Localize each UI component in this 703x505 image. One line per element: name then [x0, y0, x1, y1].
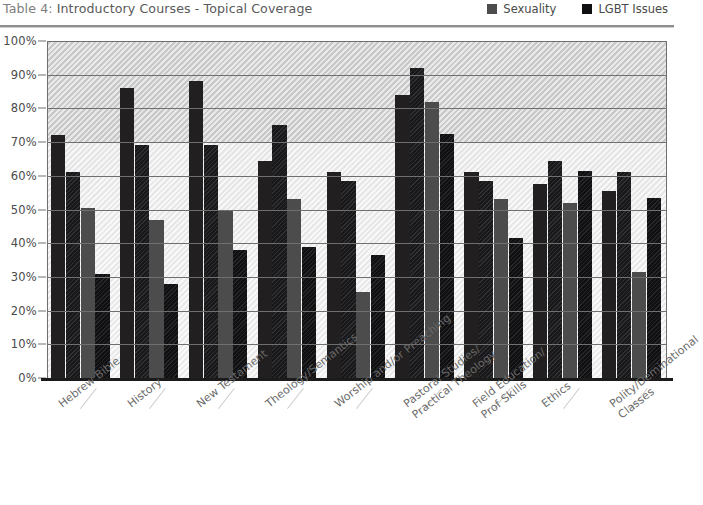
y-axis-tick-label: 80% [11, 101, 37, 115]
gridline [47, 243, 667, 244]
y-axis-tick-mark [38, 310, 46, 311]
bar [51, 135, 65, 378]
y-axis-tick-mark [38, 74, 46, 75]
bar [189, 81, 203, 378]
y-axis-tick-label: 100% [3, 34, 37, 48]
title-prefix: Table 4: [3, 1, 53, 16]
legend-item: LGBT Issues [582, 2, 668, 16]
bar [395, 95, 409, 378]
page-title: Table 4: Introductory Courses - Topical … [3, 1, 312, 16]
legend-item: Sexuality [487, 2, 556, 16]
legend-label: LGBT Issues [598, 2, 668, 16]
y-axis-tick-label: 0% [18, 371, 37, 385]
y-axis-tick-label: 90% [11, 68, 37, 82]
gridline [47, 41, 667, 42]
gridline [47, 75, 667, 76]
y-axis-tick-label: 20% [11, 304, 37, 318]
y-axis-tick-label: 10% [11, 337, 37, 351]
bar [647, 198, 661, 378]
bar [617, 172, 631, 378]
gridline [47, 176, 667, 177]
bar [258, 161, 272, 378]
bar [272, 125, 286, 378]
chart-header: Table 4: Introductory Courses - Topical … [0, 0, 674, 24]
title-text: Introductory Courses - Topical Coverage [53, 1, 313, 16]
plot-area-wrapper: 0%10%20%30%40%50%60%70%80%90%100% [0, 28, 674, 388]
gridline [47, 108, 667, 109]
gridline [47, 277, 667, 278]
y-axis-tick-mark [38, 41, 46, 42]
chart-legend: SexualityLGBT Issues [487, 2, 668, 16]
y-axis-tick-mark [38, 108, 46, 109]
bar [548, 161, 562, 378]
y-axis-tick-mark [38, 344, 46, 345]
y-axis-tick-label: 70% [11, 135, 37, 149]
y-axis-tick-label: 50% [11, 203, 37, 217]
bar [302, 247, 316, 378]
gridline [47, 142, 667, 143]
y-axis-tick-mark [38, 209, 46, 210]
y-axis-tick-label: 30% [11, 270, 37, 284]
y-axis-tick-label: 40% [11, 236, 37, 250]
y-axis-tick-mark [38, 276, 46, 277]
bar [356, 292, 370, 378]
gridline [47, 344, 667, 345]
legend-swatch-icon [582, 4, 592, 14]
bar [440, 134, 454, 378]
bar [81, 208, 95, 378]
bar [494, 199, 508, 378]
bar [509, 238, 523, 378]
bar [602, 191, 616, 378]
x-axis-labels: Hebrew BibleHistoryNew TestamentTheology… [0, 388, 674, 505]
y-axis-tick-label: 60% [11, 169, 37, 183]
plot-area [47, 41, 667, 378]
y-axis: 0%10%20%30%40%50%60%70%80%90%100% [0, 41, 47, 378]
bar [632, 272, 646, 378]
bar [287, 199, 301, 378]
legend-swatch-icon [487, 4, 497, 14]
gridline [47, 311, 667, 312]
bar [66, 172, 80, 378]
bar [120, 88, 134, 378]
y-axis-tick-mark [38, 243, 46, 244]
bar [578, 171, 592, 378]
bar [563, 203, 577, 378]
bar [164, 284, 178, 378]
y-axis-tick-mark [38, 175, 46, 176]
bar [218, 210, 232, 379]
y-axis-tick-mark [38, 142, 46, 143]
gridline [47, 210, 667, 211]
legend-label: Sexuality [503, 2, 556, 16]
